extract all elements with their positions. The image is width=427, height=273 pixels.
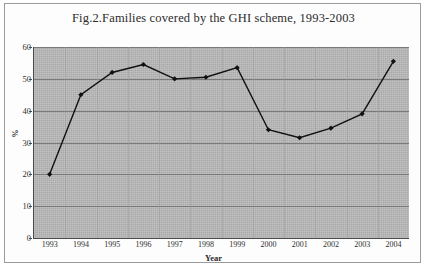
- y-axis-tick: 50: [9, 75, 31, 84]
- gridline-vertical: [253, 47, 254, 238]
- gridline-vertical: [347, 47, 348, 238]
- gridline-vertical: [222, 47, 223, 238]
- y-axis-tick: 40: [9, 106, 31, 115]
- y-axis-tickmark: [29, 206, 32, 207]
- gridline-vertical: [190, 47, 191, 238]
- x-axis-tick: 2004: [373, 241, 413, 249]
- y-axis-tick: 10: [9, 202, 31, 211]
- chart-title: Fig.2.Families covered by the GHI scheme…: [5, 11, 422, 26]
- gridline-vertical: [65, 47, 66, 238]
- x-axis-title: Year: [5, 253, 422, 263]
- figure-frame: Fig.2.Families covered by the GHI scheme…: [4, 3, 421, 263]
- gridline-vertical: [97, 47, 98, 238]
- gridline-vertical: [159, 47, 160, 238]
- y-axis-tick: 60: [9, 43, 31, 52]
- y-axis-tickmark: [29, 174, 32, 175]
- y-axis-tickmark: [29, 47, 32, 48]
- y-axis-tick: 0: [9, 234, 31, 243]
- gridline-vertical: [315, 47, 316, 238]
- plot-area: [33, 47, 409, 239]
- y-axis-tickmark: [29, 143, 32, 144]
- y-axis-title: %: [11, 120, 20, 148]
- y-axis-tickmark: [29, 79, 32, 80]
- y-axis-tickmark: [29, 111, 32, 112]
- gridline-vertical: [378, 47, 379, 238]
- y-axis-tickmark: [29, 238, 32, 239]
- gridline-vertical: [128, 47, 129, 238]
- y-axis-tick: 20: [9, 170, 31, 179]
- gridline-vertical: [284, 47, 285, 238]
